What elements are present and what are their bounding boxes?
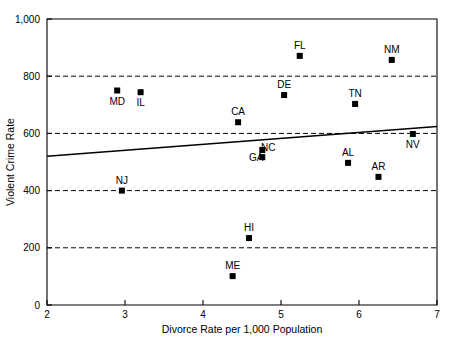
data-point-NJ bbox=[119, 188, 125, 194]
data-point-NV bbox=[410, 131, 416, 137]
x-axis-title: Divorce Rate per 1,000 Population bbox=[162, 323, 323, 335]
ytick-label-200: 200 bbox=[23, 242, 40, 253]
y-axis-title: Violent Crime Rate bbox=[4, 118, 16, 206]
chart-canvas: MDILNJCAHIMENCGADEFLALTNARNMNV 020040060… bbox=[0, 0, 449, 347]
data-point-MD bbox=[114, 88, 120, 94]
data-point-NM bbox=[389, 57, 395, 63]
scatter-plot-figure: MDILNJCAHIMENCGADEFLALTNARNMNV 020040060… bbox=[0, 0, 449, 347]
point-label-AR: AR bbox=[372, 161, 386, 172]
point-label-IL: IL bbox=[136, 97, 145, 108]
data-point-CA bbox=[235, 119, 241, 125]
regression-line bbox=[47, 127, 437, 157]
point-label-TN: TN bbox=[348, 88, 361, 99]
data-point-FL bbox=[297, 53, 303, 59]
ytick-label-600: 600 bbox=[23, 128, 40, 139]
point-label-NV: NV bbox=[406, 139, 420, 150]
data-point-HI bbox=[246, 235, 252, 241]
point-label-DE: DE bbox=[277, 79, 291, 90]
xtick-label-4: 4 bbox=[200, 309, 206, 320]
data-point-AL bbox=[345, 160, 351, 166]
ytick-label-800: 800 bbox=[23, 71, 40, 82]
point-label-AL: AL bbox=[342, 147, 355, 158]
trend-line bbox=[47, 127, 437, 157]
ytick-label-1000: 1,000 bbox=[15, 14, 40, 25]
xtick-label-7: 7 bbox=[434, 309, 440, 320]
point-label-NM: NM bbox=[384, 44, 400, 55]
data-point-DE bbox=[281, 92, 287, 98]
point-label-CA: CA bbox=[231, 106, 245, 117]
xtick-label-3: 3 bbox=[122, 309, 128, 320]
caption-clip bbox=[0, 340, 449, 347]
data-point-AR bbox=[376, 174, 382, 180]
data-point-TN bbox=[352, 101, 358, 107]
xtick-label-2: 2 bbox=[44, 309, 50, 320]
ytick-label-400: 400 bbox=[23, 185, 40, 196]
xtick-label-6: 6 bbox=[356, 309, 362, 320]
point-label-NJ: NJ bbox=[116, 175, 128, 186]
point-label-FL: FL bbox=[294, 40, 306, 51]
point-label-HI: HI bbox=[244, 222, 254, 233]
xtick-label-5: 5 bbox=[278, 309, 284, 320]
point-label-MD: MD bbox=[109, 96, 125, 107]
point-label-GA: GA bbox=[249, 152, 264, 163]
ytick-label-0: 0 bbox=[34, 300, 40, 311]
data-point-IL bbox=[138, 89, 144, 95]
point-label-ME: ME bbox=[225, 260, 240, 271]
data-point-ME bbox=[230, 273, 236, 279]
